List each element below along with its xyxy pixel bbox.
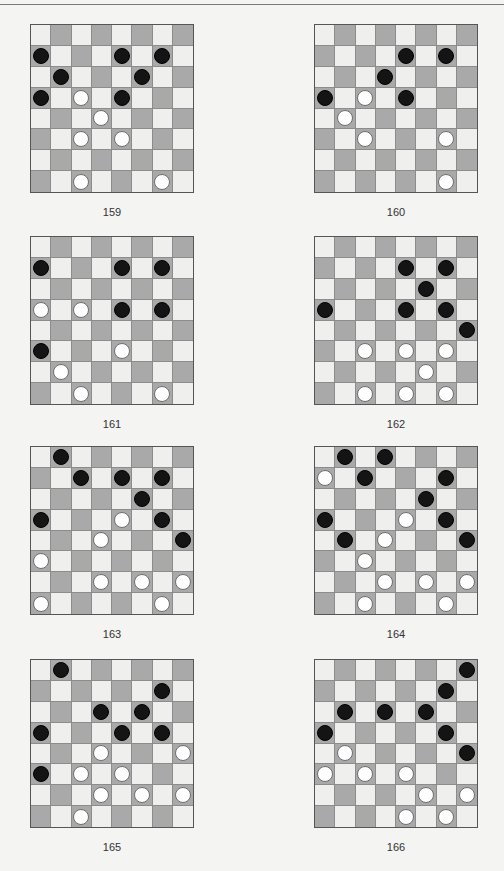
white-checker-piece-icon (175, 574, 191, 590)
light-square (457, 723, 477, 744)
white-checker-piece-icon (317, 470, 333, 486)
dark-square (92, 744, 112, 765)
dark-square (132, 67, 152, 88)
white-checker-piece-icon (73, 809, 89, 825)
dark-square (396, 88, 416, 109)
dark-square (376, 109, 396, 130)
light-square (173, 551, 193, 572)
light-square (335, 383, 355, 404)
light-square (356, 321, 376, 342)
light-square (51, 46, 71, 67)
dark-square (457, 321, 477, 342)
light-square (173, 129, 193, 150)
light-square (356, 362, 376, 383)
dark-square (112, 383, 132, 404)
dark-square (112, 551, 132, 572)
dark-square (416, 25, 436, 46)
dark-square (72, 300, 92, 321)
dark-square (112, 46, 132, 67)
dark-square (376, 744, 396, 765)
dark-square (356, 129, 376, 150)
dark-square (112, 681, 132, 702)
dark-square (437, 723, 457, 744)
white-checker-piece-icon (33, 596, 49, 612)
dark-square (315, 383, 335, 404)
light-square (356, 447, 376, 468)
diagram-number: 166 (314, 841, 478, 853)
light-square (92, 510, 112, 531)
light-square (396, 362, 416, 383)
light-square (72, 362, 92, 383)
dark-square (51, 25, 71, 46)
light-square (173, 383, 193, 404)
dark-square (396, 593, 416, 614)
light-square (437, 67, 457, 88)
light-square (376, 723, 396, 744)
dark-square (437, 46, 457, 67)
light-square (132, 258, 152, 279)
dark-square (173, 279, 193, 300)
light-square (112, 489, 132, 510)
dark-square (72, 764, 92, 785)
white-checker-piece-icon (357, 766, 373, 782)
light-square (335, 723, 355, 744)
light-square (335, 46, 355, 67)
light-square (51, 723, 71, 744)
black-checker-piece-icon (154, 683, 170, 699)
light-square (72, 660, 92, 681)
light-square (315, 362, 335, 383)
light-square (457, 258, 477, 279)
white-checker-piece-icon (134, 787, 150, 803)
diagram-161: 161 (30, 236, 194, 405)
dark-square (356, 383, 376, 404)
light-square (173, 300, 193, 321)
light-square (72, 489, 92, 510)
dark-square (335, 109, 355, 130)
light-square (92, 383, 112, 404)
light-square (31, 572, 51, 593)
light-square (416, 383, 436, 404)
light-square (356, 785, 376, 806)
light-square (173, 764, 193, 785)
checkers-board (314, 446, 478, 615)
dark-square (356, 551, 376, 572)
light-square (356, 489, 376, 510)
light-square (72, 279, 92, 300)
light-square (457, 171, 477, 192)
dark-square (315, 46, 335, 67)
dark-square (457, 702, 477, 723)
dark-square (376, 279, 396, 300)
dark-square (457, 237, 477, 258)
dark-square (315, 341, 335, 362)
white-checker-piece-icon (357, 553, 373, 569)
light-square (72, 572, 92, 593)
light-square (31, 744, 51, 765)
light-square (132, 46, 152, 67)
light-square (376, 171, 396, 192)
black-checker-piece-icon (337, 704, 353, 720)
black-checker-piece-icon (438, 470, 454, 486)
dark-square (72, 593, 92, 614)
light-square (315, 531, 335, 552)
dark-square (31, 593, 51, 614)
light-square (315, 660, 335, 681)
light-square (376, 383, 396, 404)
light-square (173, 723, 193, 744)
dark-square (315, 300, 335, 321)
dark-square (31, 723, 51, 744)
dark-square (153, 551, 173, 572)
light-square (51, 129, 71, 150)
light-square (335, 88, 355, 109)
diagram-162: 162 (314, 236, 478, 405)
dark-square (335, 531, 355, 552)
dark-square (72, 46, 92, 67)
dark-square (31, 129, 51, 150)
light-square (173, 468, 193, 489)
black-checker-piece-icon (459, 322, 475, 338)
black-checker-piece-icon (438, 725, 454, 741)
light-square (335, 681, 355, 702)
light-square (112, 447, 132, 468)
dark-square (31, 171, 51, 192)
white-checker-piece-icon (438, 386, 454, 402)
dark-square (51, 321, 71, 342)
